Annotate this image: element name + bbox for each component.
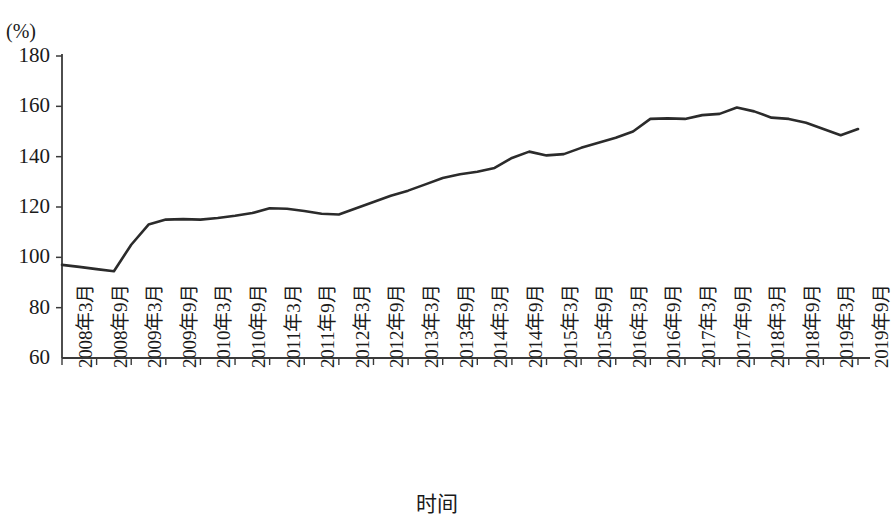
data-series — [62, 108, 858, 272]
axes — [56, 54, 870, 365]
x-axis-title: 时间 — [0, 487, 873, 517]
series-line-0 — [62, 108, 858, 272]
